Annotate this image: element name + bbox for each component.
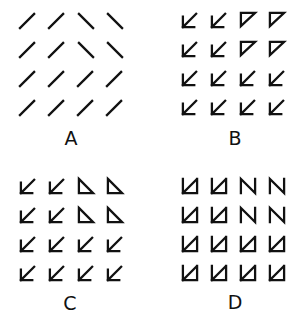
arrow-sw-icon <box>48 177 66 195</box>
arrow-sw-icon <box>181 40 199 58</box>
n-shape-icon <box>268 206 286 224</box>
arrow-sw-icon <box>19 264 37 282</box>
slash-icon <box>48 70 66 88</box>
arrow-sw-icon <box>19 177 37 195</box>
slash-icon <box>106 99 124 117</box>
arrow-sw-icon <box>268 69 286 87</box>
arrow-sw-icon <box>19 206 37 224</box>
arrow-sw-icon <box>106 235 124 253</box>
slash-icon <box>19 99 37 117</box>
triangle-bl-icon <box>77 177 95 195</box>
box-arrow-icon <box>181 206 199 224</box>
triangle-bl-icon <box>106 206 124 224</box>
triangle-tl-icon <box>239 11 257 29</box>
triangle-tl-icon <box>239 40 257 58</box>
arrow-sw-icon <box>77 264 95 282</box>
slash-icon <box>48 12 66 30</box>
arrow-sw-icon <box>48 206 66 224</box>
box-arrow-icon <box>268 235 286 253</box>
triangle-tl-icon <box>268 40 286 58</box>
panel-label: D <box>220 292 250 312</box>
arrow-sw-icon <box>77 235 95 253</box>
n-shape-icon <box>239 177 257 195</box>
arrow-sw-icon <box>106 264 124 282</box>
panel-label: B <box>220 128 250 148</box>
backslash-icon <box>106 41 124 59</box>
slash-icon <box>48 99 66 117</box>
slash-icon <box>19 12 37 30</box>
box-arrow-icon <box>181 177 199 195</box>
arrow-sw-icon <box>239 69 257 87</box>
box-arrow-icon <box>210 177 228 195</box>
arrow-sw-icon <box>181 11 199 29</box>
box-arrow-icon <box>210 235 228 253</box>
arrow-sw-icon <box>268 98 286 116</box>
box-arrow-icon <box>268 264 286 282</box>
arrow-sw-icon <box>239 98 257 116</box>
slash-icon <box>19 41 37 59</box>
arrow-sw-icon <box>210 40 228 58</box>
backslash-icon <box>106 12 124 30</box>
backslash-icon <box>77 41 95 59</box>
arrow-sw-icon <box>181 69 199 87</box>
triangle-bl-icon <box>77 206 95 224</box>
arrow-sw-icon <box>210 98 228 116</box>
box-arrow-icon <box>210 264 228 282</box>
box-arrow-icon <box>239 264 257 282</box>
triangle-bl-icon <box>106 177 124 195</box>
arrow-sw-icon <box>48 235 66 253</box>
box-arrow-icon <box>181 264 199 282</box>
box-arrow-icon <box>239 235 257 253</box>
panel-label: A <box>56 128 86 148</box>
n-shape-icon <box>268 177 286 195</box>
slash-icon <box>77 70 95 88</box>
slash-icon <box>106 70 124 88</box>
slash-icon <box>19 70 37 88</box>
arrow-sw-icon <box>19 235 37 253</box>
slash-icon <box>77 99 95 117</box>
box-arrow-icon <box>181 235 199 253</box>
arrow-sw-icon <box>48 264 66 282</box>
slash-icon <box>48 41 66 59</box>
panel-label: C <box>55 293 85 313</box>
box-arrow-icon <box>210 206 228 224</box>
arrow-sw-icon <box>210 11 228 29</box>
n-shape-icon <box>239 206 257 224</box>
backslash-icon <box>77 12 95 30</box>
triangle-tl-icon <box>268 11 286 29</box>
arrow-sw-icon <box>181 98 199 116</box>
arrow-sw-icon <box>210 69 228 87</box>
